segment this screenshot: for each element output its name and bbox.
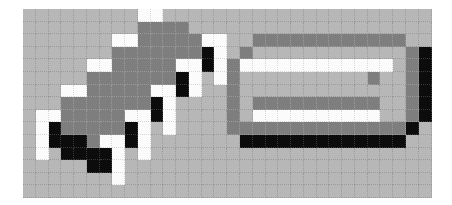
grid-cell-bg[interactable]	[74, 59, 87, 72]
grid-cell-bg[interactable]	[253, 160, 266, 173]
grid-cell-bg[interactable]	[329, 185, 342, 198]
grid-cell-dark[interactable]	[266, 34, 279, 47]
grid-cell-bg[interactable]	[329, 173, 342, 186]
grid-cell-bg[interactable]	[380, 85, 393, 98]
grid-cell-bg[interactable]	[202, 85, 215, 98]
grid-cell-dark[interactable]	[253, 122, 266, 135]
grid-cell-bg[interactable]	[74, 22, 87, 35]
grid-cell-black[interactable]	[419, 47, 432, 60]
grid-cell-dark[interactable]	[227, 122, 240, 135]
grid-cell-black[interactable]	[125, 135, 138, 148]
grid-cell-white[interactable]	[151, 9, 164, 22]
grid-cell-dark[interactable]	[291, 34, 304, 47]
grid-cell-bg[interactable]	[342, 72, 355, 85]
grid-cell-bg[interactable]	[393, 9, 406, 22]
grid-cell-bg[interactable]	[189, 148, 202, 161]
grid-cell-bg[interactable]	[266, 9, 279, 22]
grid-cell-black[interactable]	[151, 110, 164, 123]
grid-cell-white[interactable]	[240, 59, 253, 72]
grid-cell-dark[interactable]	[406, 47, 419, 60]
grid-cell-dark[interactable]	[138, 72, 151, 85]
grid-cell-bg[interactable]	[253, 185, 266, 198]
grid-cell-bg[interactable]	[151, 135, 164, 148]
grid-cell-bg[interactable]	[61, 160, 74, 173]
grid-cell-bg[interactable]	[419, 160, 432, 173]
grid-cell-dark[interactable]	[227, 110, 240, 123]
grid-cell-bg[interactable]	[87, 9, 100, 22]
grid-cell-dark[interactable]	[266, 97, 279, 110]
grid-cell-black[interactable]	[202, 47, 215, 60]
grid-cell-bg[interactable]	[138, 185, 151, 198]
grid-cell-dark[interactable]	[266, 122, 279, 135]
grid-cell-bg[interactable]	[227, 185, 240, 198]
grid-cell-white[interactable]	[189, 85, 202, 98]
grid-cell-bg[interactable]	[342, 85, 355, 98]
grid-cell-bg[interactable]	[125, 160, 138, 173]
grid-cell-bg[interactable]	[317, 9, 330, 22]
grid-cell-white[interactable]	[380, 59, 393, 72]
grid-cell-bg[interactable]	[125, 173, 138, 186]
grid-cell-bg[interactable]	[406, 9, 419, 22]
grid-cell-black[interactable]	[74, 148, 87, 161]
grid-cell-black[interactable]	[240, 135, 253, 148]
grid-cell-bg[interactable]	[202, 148, 215, 161]
grid-cell-dark[interactable]	[240, 47, 253, 60]
grid-cell-bg[interactable]	[61, 47, 74, 60]
grid-cell-bg[interactable]	[291, 22, 304, 35]
grid-cell-bg[interactable]	[36, 72, 49, 85]
grid-cell-bg[interactable]	[176, 9, 189, 22]
grid-cell-white[interactable]	[138, 148, 151, 161]
grid-cell-bg[interactable]	[380, 173, 393, 186]
grid-cell-bg[interactable]	[419, 185, 432, 198]
grid-cell-bg[interactable]	[61, 59, 74, 72]
grid-cell-white[interactable]	[329, 110, 342, 123]
grid-cell-black[interactable]	[304, 135, 317, 148]
grid-cell-white[interactable]	[304, 110, 317, 123]
grid-cell-dark[interactable]	[240, 122, 253, 135]
grid-cell-bg[interactable]	[49, 185, 62, 198]
grid-cell-bg[interactable]	[355, 72, 368, 85]
grid-cell-white[interactable]	[125, 34, 138, 47]
grid-cell-white[interactable]	[125, 110, 138, 123]
grid-cell-bg[interactable]	[176, 135, 189, 148]
grid-cell-bg[interactable]	[419, 135, 432, 148]
grid-cell-bg[interactable]	[380, 72, 393, 85]
grid-cell-black[interactable]	[61, 135, 74, 148]
grid-cell-black[interactable]	[100, 148, 113, 161]
grid-cell-bg[interactable]	[23, 59, 36, 72]
grid-cell-dark[interactable]	[329, 122, 342, 135]
grid-cell-bg[interactable]	[291, 47, 304, 60]
grid-cell-dark[interactable]	[189, 34, 202, 47]
grid-cell-bg[interactable]	[189, 97, 202, 110]
grid-cell-bg[interactable]	[74, 9, 87, 22]
grid-cell-dark[interactable]	[100, 122, 113, 135]
grid-cell-white[interactable]	[266, 59, 279, 72]
grid-cell-bg[interactable]	[291, 173, 304, 186]
grid-cell-bg[interactable]	[49, 148, 62, 161]
grid-cell-bg[interactable]	[355, 9, 368, 22]
grid-cell-dark[interactable]	[406, 85, 419, 98]
grid-cell-dark[interactable]	[74, 97, 87, 110]
grid-cell-bg[interactable]	[317, 173, 330, 186]
grid-cell-bg[interactable]	[240, 185, 253, 198]
grid-cell-dark[interactable]	[100, 110, 113, 123]
grid-cell-white[interactable]	[112, 135, 125, 148]
grid-cell-dark[interactable]	[125, 97, 138, 110]
grid-cell-dark[interactable]	[355, 34, 368, 47]
grid-cell-bg[interactable]	[227, 22, 240, 35]
grid-cell-dark[interactable]	[368, 97, 381, 110]
grid-cell-bg[interactable]	[329, 148, 342, 161]
grid-cell-bg[interactable]	[291, 85, 304, 98]
grid-cell-bg[interactable]	[87, 173, 100, 186]
grid-cell-bg[interactable]	[278, 148, 291, 161]
grid-cell-bg[interactable]	[406, 160, 419, 173]
grid-cell-white[interactable]	[36, 110, 49, 123]
grid-cell-white[interactable]	[266, 110, 279, 123]
grid-cell-bg[interactable]	[266, 160, 279, 173]
grid-cell-white[interactable]	[163, 110, 176, 123]
grid-cell-bg[interactable]	[227, 173, 240, 186]
grid-cell-bg[interactable]	[61, 9, 74, 22]
grid-cell-bg[interactable]	[23, 135, 36, 148]
grid-cell-bg[interactable]	[125, 9, 138, 22]
grid-cell-bg[interactable]	[342, 148, 355, 161]
